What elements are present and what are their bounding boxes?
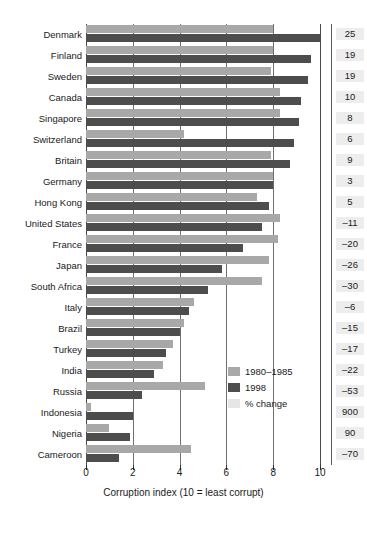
percent-change-value: 6	[336, 133, 364, 145]
percent-change-value: –26	[336, 259, 364, 271]
bar-1980-1985	[86, 298, 194, 306]
bar-1980-1985	[86, 130, 184, 138]
bar-row	[86, 213, 320, 234]
percent-change-value: 3	[336, 175, 364, 187]
bar-1998	[86, 118, 299, 126]
bar-1980-1985	[86, 445, 191, 453]
bar-1980-1985	[86, 277, 262, 285]
bar-1998	[86, 139, 294, 147]
bar-row	[86, 87, 320, 108]
bar-1998	[86, 286, 208, 294]
bar-1998	[86, 370, 154, 378]
bar-row	[86, 192, 320, 213]
x-tick-label: 0	[75, 467, 97, 479]
bar-1980-1985	[86, 340, 173, 348]
bar-1980-1985	[86, 382, 205, 390]
bar-1998	[86, 412, 133, 420]
bar-1998	[86, 223, 262, 231]
category-label: Turkey	[0, 344, 82, 355]
bar-row	[86, 234, 320, 255]
bar-1980-1985	[86, 109, 280, 117]
x-tick-label: 4	[169, 467, 191, 479]
x-axis-title: Corruption index (10 = least corrupt)	[0, 487, 367, 498]
bar-row	[86, 45, 320, 66]
percent-change-value: –17	[336, 343, 364, 355]
percent-change-value: 8	[336, 112, 364, 124]
bar-1980-1985	[86, 319, 184, 327]
legend-label: 1998	[245, 382, 266, 393]
bar-1998	[86, 202, 269, 210]
bar-1998	[86, 391, 142, 399]
bar-row	[86, 276, 320, 297]
x-tick-label: 8	[262, 467, 284, 479]
bar-1998	[86, 244, 243, 252]
legend-swatch	[228, 383, 240, 392]
bar-row	[86, 24, 320, 45]
percent-change-value: –53	[336, 385, 364, 397]
legend-swatch	[228, 367, 240, 376]
bar-1998	[86, 328, 180, 336]
percent-change-value: 900	[336, 406, 364, 418]
bar-1980-1985	[86, 151, 271, 159]
percent-change-value: 19	[336, 70, 364, 82]
percent-change-column: 2519191086935–11–20–26–30–6–15–17–22–539…	[336, 24, 367, 465]
bar-1998	[86, 454, 119, 462]
category-label: Italy	[0, 302, 82, 313]
percent-change-value: 9	[336, 154, 364, 166]
category-label: Finland	[0, 50, 82, 61]
bar-row	[86, 66, 320, 87]
category-axis-labels: DenmarkFinlandSwedenCanadaSingaporeSwitz…	[0, 24, 82, 465]
category-label: Switzerland	[0, 134, 82, 145]
category-label: Hong Kong	[0, 197, 82, 208]
bar-row	[86, 150, 320, 171]
percent-change-value: 25	[336, 28, 364, 40]
category-label: Canada	[0, 92, 82, 103]
percent-change-value: 5	[336, 196, 364, 208]
bar-1998	[86, 34, 320, 42]
legend-item: % change	[228, 396, 324, 411]
legend-item: 1998	[228, 380, 324, 395]
legend-label: % change	[245, 398, 287, 409]
bar-1980-1985	[86, 67, 271, 75]
bar-row	[86, 108, 320, 129]
percent-change-value: –20	[336, 238, 364, 250]
x-tick-label: 2	[122, 467, 144, 479]
category-label: Indonesia	[0, 407, 82, 418]
bar-1980-1985	[86, 172, 273, 180]
corruption-index-bar-chart: DenmarkFinlandSwedenCanadaSingaporeSwitz…	[0, 0, 367, 543]
bar-1980-1985	[86, 193, 257, 201]
bar-1998	[86, 55, 311, 63]
percent-change-value: –11	[336, 217, 364, 229]
bar-1998	[86, 265, 222, 273]
bar-row	[86, 255, 320, 276]
bar-1980-1985	[86, 424, 109, 432]
category-label: India	[0, 365, 82, 376]
bar-row	[86, 339, 320, 360]
bar-1980-1985	[86, 46, 273, 54]
category-label: Sweden	[0, 71, 82, 82]
bar-1998	[86, 76, 308, 84]
category-label: Germany	[0, 176, 82, 187]
bar-1980-1985	[86, 214, 280, 222]
bar-1980-1985	[86, 25, 273, 33]
bar-1998	[86, 349, 166, 357]
bar-1998	[86, 181, 273, 189]
category-label: Brazil	[0, 323, 82, 334]
bar-row	[86, 171, 320, 192]
percent-change-value: –30	[336, 280, 364, 292]
category-label: Denmark	[0, 29, 82, 40]
category-label: Russia	[0, 386, 82, 397]
bar-1998	[86, 97, 301, 105]
x-tick-label: 10	[309, 467, 331, 479]
percent-change-value: 90	[336, 427, 364, 439]
percent-change-value: 10	[336, 91, 364, 103]
bar-1980-1985	[86, 235, 278, 243]
category-label: Singapore	[0, 113, 82, 124]
category-label: South Africa	[0, 281, 82, 292]
legend-swatch	[228, 399, 240, 408]
bar-row	[86, 318, 320, 339]
bar-row	[86, 423, 320, 444]
percent-change-value: –6	[336, 301, 364, 313]
bar-1998	[86, 433, 130, 441]
percent-change-value: –70	[336, 448, 364, 460]
